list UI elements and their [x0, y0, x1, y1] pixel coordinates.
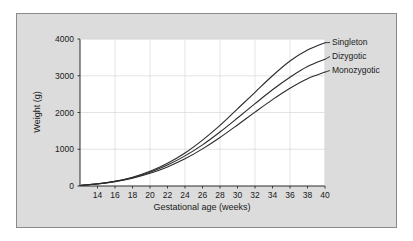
x-tick-label: 20 — [145, 190, 155, 200]
leader-lines-group — [325, 43, 330, 73]
x-tick-label: 30 — [233, 190, 243, 200]
leader-line-monozygotic — [325, 71, 330, 73]
series-label-monozygotic: Monozygotic — [332, 65, 380, 75]
x-axis-title: Gestational age (weeks) — [153, 202, 250, 212]
y-tick-label: 2000 — [55, 108, 74, 118]
y-axis-title: Weight (g) — [32, 91, 42, 132]
x-tick-label: 16 — [110, 190, 120, 200]
x-tick-label: 14 — [93, 190, 103, 200]
leader-line-dizygotic — [325, 57, 330, 60]
y-tick-label: 4000 — [55, 34, 74, 44]
series-labels-group: SingletonDizygoticMonozygotic — [332, 37, 380, 75]
y-tick-label: 0 — [69, 181, 74, 191]
x-tick-label: 26 — [198, 190, 208, 200]
x-tick-label: 38 — [303, 190, 313, 200]
x-tick-label: 40 — [320, 190, 330, 200]
x-tick-label: 32 — [250, 190, 260, 200]
x-tick-label: 36 — [285, 190, 295, 200]
x-tick-label: 24 — [180, 190, 190, 200]
series-label-dizygotic: Dizygotic — [332, 51, 367, 61]
x-tick-labels-group: 1416182022242628303234363840 — [93, 186, 330, 200]
y-tick-label: 1000 — [55, 144, 74, 154]
series-label-singleton: Singleton — [332, 37, 368, 47]
y-tick-labels-group: 01000200030004000 — [55, 34, 80, 191]
x-tick-label: 28 — [215, 190, 225, 200]
x-tick-label: 18 — [128, 190, 138, 200]
x-tick-label: 22 — [163, 190, 173, 200]
figure-container: 1416182022242628303234363840 01000200030… — [0, 0, 413, 241]
x-tick-label: 34 — [268, 190, 278, 200]
y-tick-label: 3000 — [55, 71, 74, 81]
chart-svg: 1416182022242628303234363840 01000200030… — [0, 0, 413, 241]
